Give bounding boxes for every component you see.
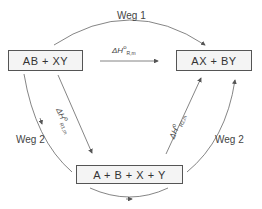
direct-enthalpy-label: ΔHoR,m <box>112 44 136 56</box>
path1-label: Weg 1 <box>117 10 146 21</box>
path2-left-label: Weg 2 <box>16 134 45 145</box>
path2-right-curve <box>187 80 235 172</box>
path2-right-label: Weg 2 <box>215 134 244 145</box>
products-box: AX + BY <box>176 50 252 71</box>
atoms-box: A + B + X + Y <box>76 165 183 184</box>
path1-arc <box>54 20 205 45</box>
bottom-curve <box>90 188 168 197</box>
reactants-box: AB + XY <box>8 50 83 71</box>
